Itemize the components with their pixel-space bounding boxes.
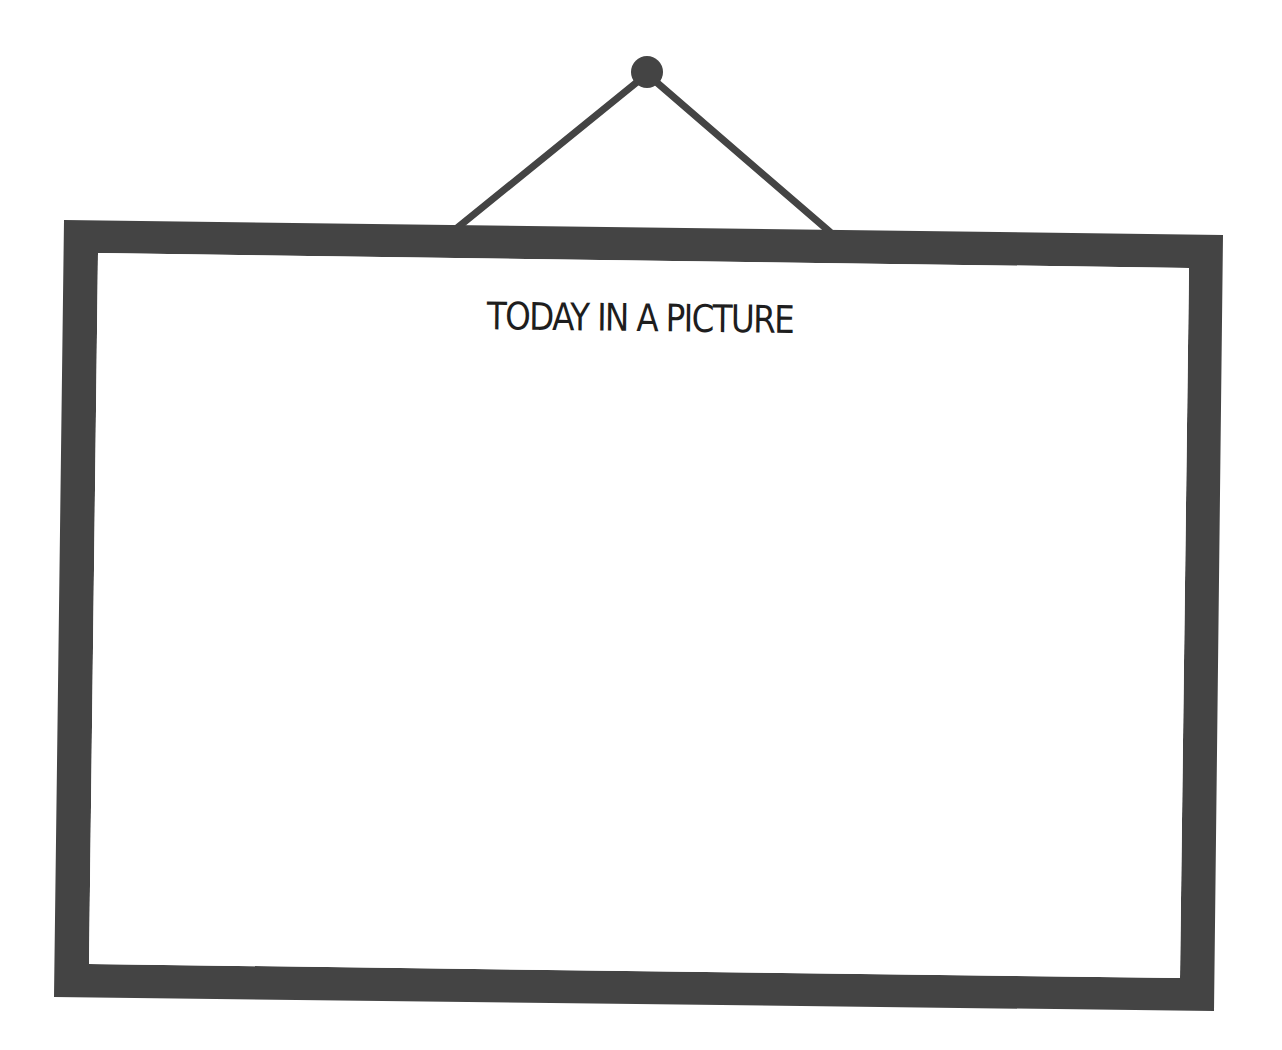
hanging-picture-frame-worksheet: TODAY IN A PICTURE	[0, 0, 1282, 1050]
frame-title: TODAY IN A PICTURE	[468, 292, 812, 344]
hanging-string-icon	[457, 74, 830, 232]
drawing-area[interactable]	[100, 370, 1180, 960]
nail-icon	[631, 56, 663, 88]
